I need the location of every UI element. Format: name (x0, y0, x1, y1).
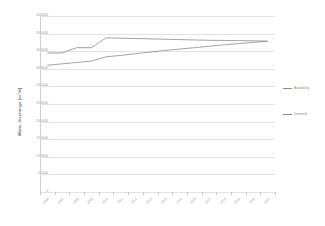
x-tick-mark (143, 192, 144, 195)
legend-item-availability[interactable]: Availability (283, 86, 309, 90)
x-tick-mark (128, 192, 129, 195)
legend-swatch-icon (283, 114, 292, 115)
legend-swatch-icon (283, 88, 292, 89)
x-tick-mark (69, 192, 70, 195)
series-line-demand (47, 41, 267, 65)
x-tick-mark (84, 192, 85, 195)
x-tick-mark (55, 192, 56, 195)
x-tick-mark (231, 192, 232, 195)
x-tick-mark (216, 192, 217, 195)
x-tick-mark (275, 192, 276, 195)
x-tick-mark (40, 192, 41, 195)
x-tick-mark (246, 192, 247, 195)
x-tick-mark (260, 192, 261, 195)
series-lines (40, 16, 275, 192)
series-line-availability (47, 38, 267, 53)
x-tick-mark (99, 192, 100, 195)
x-tick-mark (202, 192, 203, 195)
plot-area (40, 16, 275, 192)
x-tick-mark (158, 192, 159, 195)
chart-container: Water discharge [m³/d] 50000004500000400… (0, 0, 325, 226)
x-tick-mark (187, 192, 188, 195)
legend-label: Demand (294, 112, 307, 116)
legend-label: Availability (294, 86, 309, 90)
x-tick-mark (113, 192, 114, 195)
legend-item-demand[interactable]: Demand (283, 112, 307, 116)
x-tick-mark (172, 192, 173, 195)
